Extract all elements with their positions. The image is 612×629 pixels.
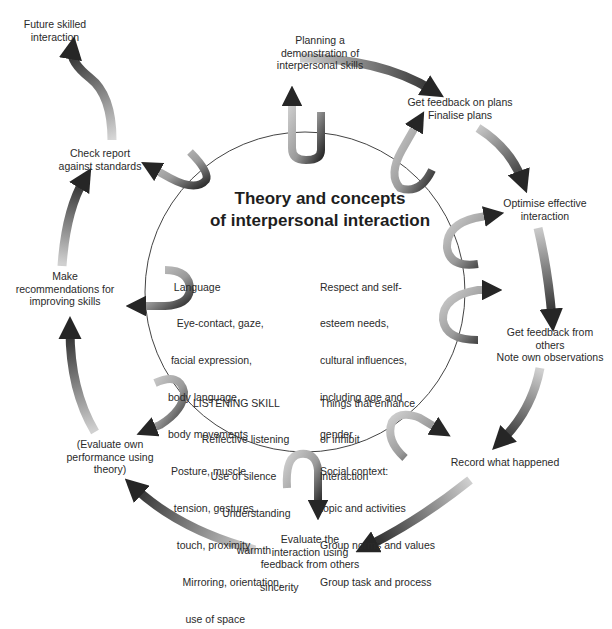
node-future: Future skilled interaction: [0, 18, 110, 43]
arrow-own-to-recommendations: [70, 330, 95, 432]
u-arrow-top-left: [152, 152, 207, 186]
diagram-title: Theory and concepts of interpersonal int…: [200, 188, 440, 232]
arrow-feedback-others-to-record: [502, 368, 540, 440]
node-feedback-plans: Get feedback on plans Finalise plans: [395, 96, 525, 121]
inner-enhance-list: Things that enhance or inhibit interacti…: [320, 372, 415, 495]
node-recommendations: Make recommendations for improving skill…: [10, 270, 120, 308]
node-feedback-others: Get feedback from others Note own observ…: [488, 326, 612, 364]
node-evaluate-own: (Evaluate own performance using theory): [55, 438, 165, 476]
u-arrow-top-right: [394, 122, 432, 190]
arrow-feedback-to-optimise: [478, 128, 522, 180]
node-planning: Planning a demonstration of interpersona…: [255, 34, 385, 72]
u-arrow-right-upper: [447, 215, 492, 265]
u-arrow-top: [292, 98, 321, 160]
arrow-optimise-to-feedback-others: [538, 228, 552, 318]
arrow-check-to-future: [72, 50, 112, 140]
inner-listening-list: LISTENING SKILL Reflective listening Use…: [193, 372, 299, 606]
node-record: Record what happened: [430, 456, 580, 469]
u-arrow-right-lower: [443, 290, 490, 340]
node-check-report: Check report against standards: [45, 147, 155, 172]
node-optimise: Optimise effective interaction: [490, 197, 600, 222]
arrow-recommendations-to-check: [62, 180, 84, 266]
